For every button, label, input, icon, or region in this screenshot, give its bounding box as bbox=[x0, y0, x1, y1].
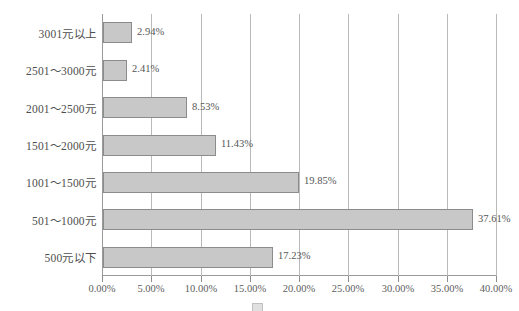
bar-value-label: 17.23% bbox=[278, 250, 310, 261]
gridline bbox=[299, 14, 300, 276]
category-label: 500元以下 bbox=[45, 249, 96, 265]
x-axis-tick bbox=[250, 276, 251, 282]
bar bbox=[103, 97, 187, 118]
category-label: 501～1000元 bbox=[32, 212, 96, 228]
bar bbox=[103, 172, 299, 193]
gridline bbox=[398, 14, 399, 276]
bar-value-label: 8.53% bbox=[192, 101, 219, 112]
x-axis-tick bbox=[348, 276, 349, 282]
figure-caption bbox=[0, 301, 519, 311]
bar-value-label: 2.94% bbox=[137, 26, 164, 37]
bar bbox=[103, 247, 273, 268]
bar-value-label: 2.41% bbox=[132, 63, 159, 74]
bar bbox=[103, 135, 216, 156]
bar bbox=[103, 209, 473, 230]
x-axis-tick bbox=[201, 276, 202, 282]
gridline bbox=[348, 14, 349, 276]
category-label: 1001～1500元 bbox=[26, 174, 96, 190]
bar bbox=[103, 60, 127, 81]
bar bbox=[103, 22, 132, 43]
category-label: 1501～2000元 bbox=[26, 137, 96, 153]
x-axis-tick bbox=[496, 276, 497, 282]
gridline bbox=[447, 14, 448, 276]
x-axis-tick bbox=[151, 276, 152, 282]
bar-value-label: 37.61% bbox=[478, 213, 510, 224]
x-axis-tick bbox=[447, 276, 448, 282]
x-axis-tick-label: 40.00% bbox=[466, 283, 519, 294]
x-axis-tick bbox=[102, 276, 103, 282]
x-axis-tick bbox=[398, 276, 399, 282]
gridline bbox=[496, 14, 497, 276]
x-axis-tick bbox=[299, 276, 300, 282]
category-label: 2501～3000元 bbox=[26, 62, 96, 78]
bar-value-label: 19.85% bbox=[304, 175, 336, 186]
bar-chart: 0.00%5.00%10.00%15.00%20.00%25.00%30.00%… bbox=[0, 0, 519, 311]
category-label: 3001元以上 bbox=[39, 25, 96, 41]
bar-value-label: 11.43% bbox=[221, 138, 253, 149]
category-label: 2001～2500元 bbox=[26, 100, 96, 116]
legend-swatch-icon bbox=[252, 303, 263, 311]
